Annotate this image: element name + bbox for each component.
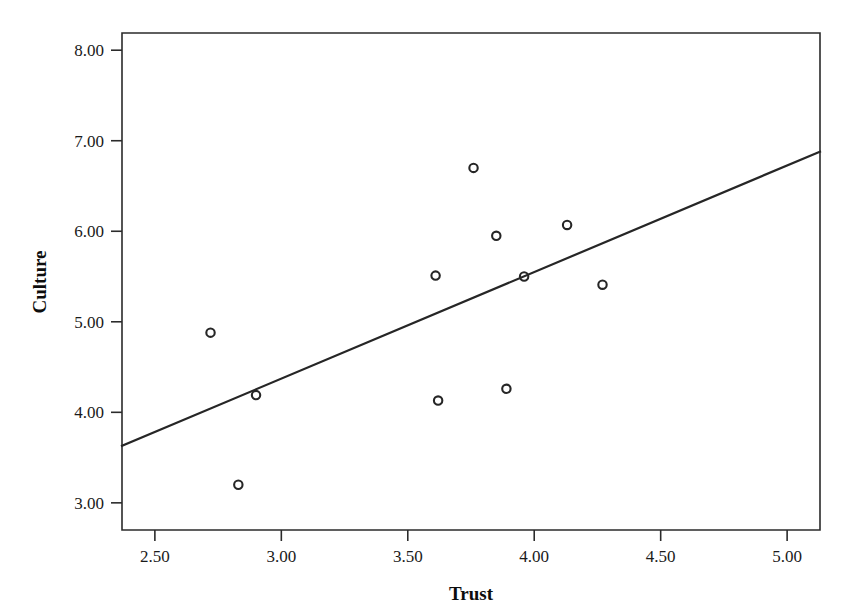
y-tick-label: 3.00 [74, 494, 104, 513]
data-point [206, 328, 214, 336]
y-tick-label: 5.00 [74, 313, 104, 332]
data-point [502, 385, 510, 393]
y-tick-label: 7.00 [74, 132, 104, 151]
x-tick-label: 3.00 [266, 547, 296, 566]
data-point [598, 280, 606, 288]
data-point [434, 396, 442, 404]
x-axis-title: Trust [449, 583, 494, 604]
linear-fit-line [122, 152, 820, 446]
y-axis-ticks: 3.004.005.006.007.008.00 [74, 41, 122, 513]
y-tick-label: 8.00 [74, 41, 104, 60]
data-point [234, 481, 242, 489]
y-tick-label: 4.00 [74, 403, 104, 422]
x-tick-label: 3.50 [393, 547, 423, 566]
regression-line-group [122, 152, 820, 446]
data-point [469, 164, 477, 172]
scatter-plot-figure: 2.503.003.504.004.505.00 3.004.005.006.0… [0, 0, 862, 616]
x-tick-label: 2.50 [140, 547, 170, 566]
data-point [252, 391, 260, 399]
x-tick-label: 4.00 [519, 547, 549, 566]
data-point [431, 271, 439, 279]
y-axis-title: Culture [29, 251, 50, 314]
x-axis-ticks: 2.503.003.504.004.505.00 [140, 530, 802, 566]
plot-frame [122, 33, 820, 530]
data-point [563, 221, 571, 229]
x-tick-label: 5.00 [772, 547, 802, 566]
data-point [492, 232, 500, 240]
chart-canvas: 2.503.003.504.004.505.00 3.004.005.006.0… [0, 0, 862, 616]
x-tick-label: 4.50 [646, 547, 676, 566]
y-tick-label: 6.00 [74, 222, 104, 241]
